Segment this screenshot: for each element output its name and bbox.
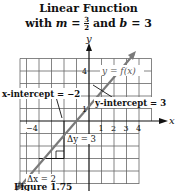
y-tick-1: 1 (82, 105, 87, 114)
x-tick-1: 1 (99, 124, 104, 133)
delta-y-label: Δy = 3 (67, 134, 96, 144)
line-label: y = f(x) (101, 66, 136, 76)
y-axis-arrow-icon (86, 43, 92, 51)
y-axis-label: y (85, 33, 92, 44)
x-tick-neg4: −4 (26, 124, 38, 133)
y-tick-4: 4 (82, 67, 87, 76)
y-intercept-leader (93, 85, 112, 97)
figure-caption: Figure 1.75 (14, 182, 72, 191)
x-axis-label: x (169, 115, 175, 126)
x-tick-2: 2 (111, 124, 116, 133)
right-angle-marker (56, 151, 64, 159)
y-intercept-label: y-intercept = 3 (94, 98, 166, 108)
x-intercept-leader (56, 97, 62, 118)
x-tick-3: 3 (124, 124, 129, 133)
x-tick-4: 4 (136, 124, 141, 133)
x-axis-arrow-icon (159, 118, 168, 124)
graph: −4 1 2 3 4 1 4 x y y = f(x) x-intercept … (0, 0, 177, 191)
x-intercept-label: x-intercept = −2 (2, 89, 80, 99)
